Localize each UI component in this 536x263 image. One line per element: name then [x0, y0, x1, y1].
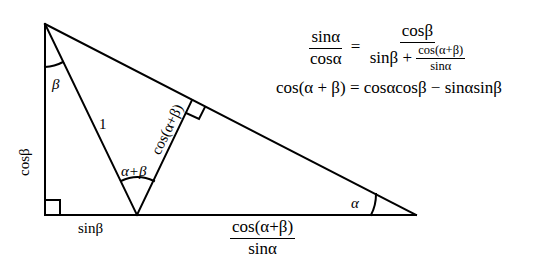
sin-beta-label: sinβ [78, 220, 103, 237]
eq1-rhs-den-frac-den: sinα [428, 59, 453, 74]
bottom-frac-numerator: cos(α+β) [230, 218, 295, 239]
bottom-frac-denominator: sinα [246, 239, 279, 259]
unit-segment [45, 24, 137, 215]
eq1-lhs-denominator: cosα [308, 49, 344, 69]
equation-2: cos(α + β) = cosαcosβ − sinαsinβ [276, 78, 502, 98]
eq1-lhs-numerator: sinα [309, 28, 342, 49]
alpha-arc [371, 194, 376, 215]
alpha-label: α [351, 195, 359, 212]
eq1-rhs-numerator: cosβ [400, 22, 435, 43]
eq1-equals: = [351, 37, 361, 56]
right-angle-marker-bottom [45, 200, 60, 215]
eq1-rhs-den-frac-num: cos(α+β) [416, 44, 465, 60]
equation-1: sinα cosα = cosβ sinβ + cos(α+β) sinα [308, 22, 467, 74]
alpha-plus-beta-label: α+β [121, 163, 146, 180]
beta-arc [45, 62, 63, 67]
eq1-rhs-den-prefix: sinβ + [370, 48, 412, 67]
eq1-rhs-denominator: sinβ + cos(α+β) sinα [368, 43, 468, 75]
beta-label: β [52, 76, 59, 93]
cos-beta-label: cosβ [16, 148, 33, 176]
one-label: 1 [99, 116, 107, 133]
bottom-fraction: cos(α+β) sinα [230, 218, 295, 258]
